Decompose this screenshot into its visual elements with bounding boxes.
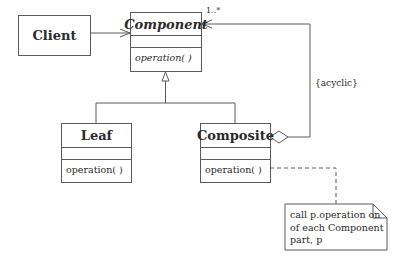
class-component-operation: operation( ) [131,48,201,63]
class-component-attributes [131,36,201,48]
class-leaf-name: Leaf [62,124,131,148]
class-composite: Composite operation( ) [200,123,271,183]
multiplicity-label: 1..* [206,6,220,15]
class-composite-operation: operation( ) [201,160,270,175]
note-line-1: call p.operation on [290,209,383,222]
class-leaf-operation: operation( ) [62,160,131,175]
class-component: Component operation( ) [130,12,202,72]
note-line-2: of each Component [290,222,383,235]
class-leaf: Leaf operation( ) [61,123,132,183]
class-component-name: Component [131,13,201,36]
class-composite-name: Composite [201,124,270,148]
note-line-3: part, p [290,234,383,247]
aggregation-line [202,24,310,137]
class-client-name: Client [19,16,90,55]
generalization-triangle-icon [162,72,169,81]
class-leaf-attributes [62,148,131,160]
constraint-label: {acyclic} [315,78,358,88]
note-text: call p.operation on of each Component pa… [290,209,383,247]
class-composite-attributes [201,148,270,160]
class-client: Client [18,15,91,56]
